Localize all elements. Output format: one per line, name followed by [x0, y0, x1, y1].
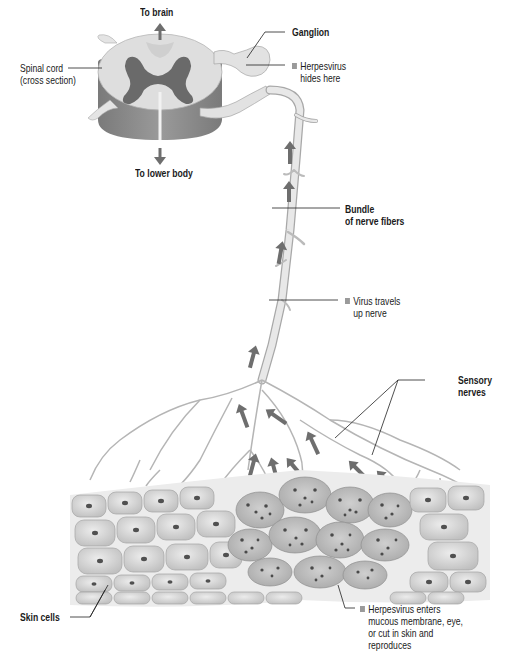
label-enters-line2: mucous membrane, eye, — [360, 615, 463, 627]
label-herpes-hides-line1: Herpesvirus — [300, 60, 346, 72]
label-enters-line4: reproduces — [360, 639, 463, 651]
bullet-icon — [345, 298, 350, 304]
bullet-icon — [292, 63, 297, 69]
label-sensory-line1: Sensory — [458, 374, 492, 386]
label-bundle-line1: Bundle — [345, 203, 404, 215]
label-sensory-nerves: Sensory nerves — [458, 374, 492, 398]
herpes-nerve-diagram — [0, 0, 507, 657]
label-herpes-hides-line2: hides here — [292, 72, 346, 84]
label-spinal-cord: Spinal cord (cross section) — [20, 62, 76, 86]
label-spinal-cord-line2: (cross section) — [20, 74, 76, 86]
label-virus-travels-line1: Virus travels — [353, 295, 400, 307]
label-bundle-nerve-fibers: Bundle of nerve fibers — [345, 203, 404, 227]
to-lower-body-arrow — [154, 148, 166, 165]
label-enters-line3: or cut in skin and — [360, 627, 463, 639]
label-skin-cells: Skin cells — [20, 611, 60, 623]
infected-cells-center — [228, 477, 412, 589]
spinal-cord — [88, 34, 270, 140]
label-enters-line1: Herpesvirus enters — [368, 603, 440, 615]
label-ganglion: Ganglion — [292, 26, 329, 38]
label-virus-travels-line2: up nerve — [345, 307, 400, 319]
label-sensory-line2: nerves — [458, 386, 492, 398]
label-herpes-enters: Herpesvirus enters mucous membrane, eye,… — [360, 603, 463, 651]
label-to-lower-body: To lower body — [135, 167, 193, 179]
bullet-icon — [360, 606, 365, 612]
label-to-brain: To brain — [140, 6, 173, 18]
label-virus-travels: Virus travels up nerve — [345, 295, 400, 319]
skin-cell-layer — [70, 470, 490, 607]
label-herpes-hides: Herpesvirus hides here — [292, 60, 346, 84]
label-bundle-line2: of nerve fibers — [345, 215, 404, 227]
nerve-bundle — [262, 90, 316, 380]
label-spinal-cord-line1: Spinal cord — [20, 62, 76, 74]
